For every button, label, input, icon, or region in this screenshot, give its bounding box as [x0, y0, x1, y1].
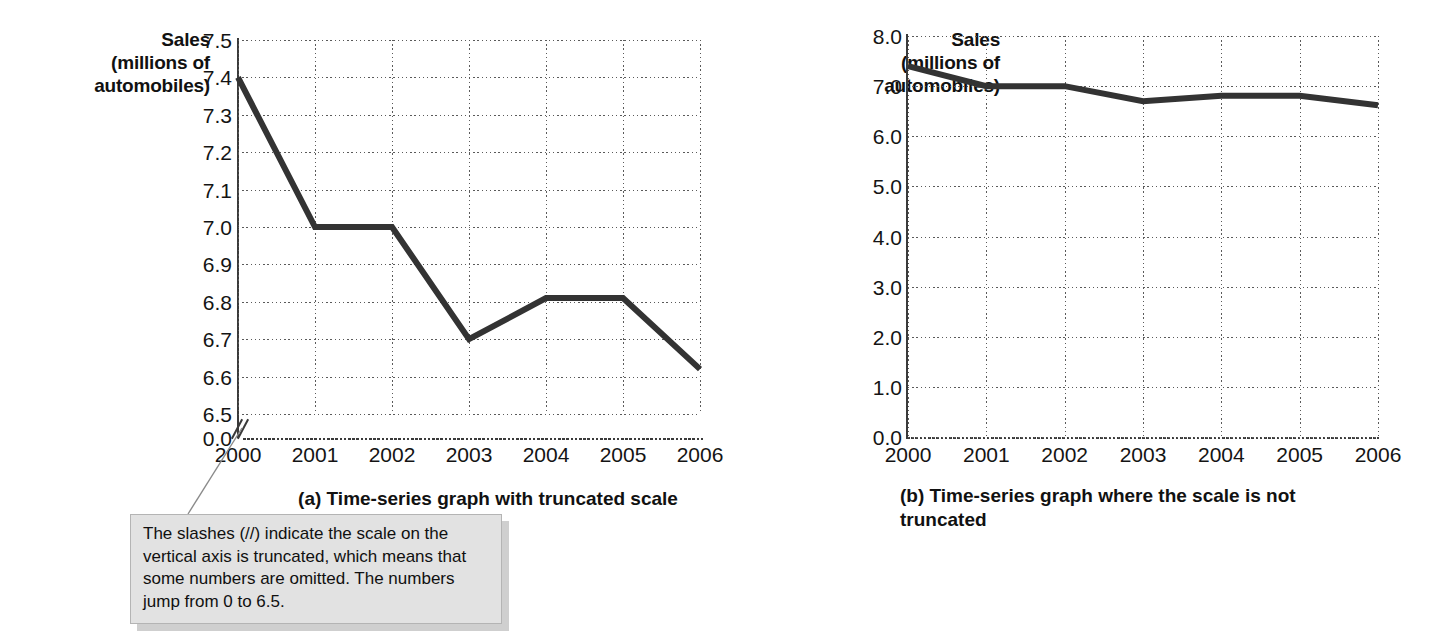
- y-tick-label: 6.0: [782, 126, 902, 147]
- gridline-horizontal: [908, 437, 1378, 438]
- y-tick-label: 4.0: [782, 227, 902, 248]
- gridline-vertical: [238, 40, 239, 414]
- x-tick-label: 2006: [655, 444, 745, 465]
- y-tick-label: 1.0: [782, 377, 902, 398]
- y-tick-label: 6.6: [112, 367, 232, 388]
- y-tick-label: 3.0: [782, 277, 902, 298]
- callout-truncation-note: The slashes (//) indicate the scale on t…: [130, 514, 502, 624]
- y-tick-label: 6.5: [112, 404, 232, 425]
- x-tick-label: 2003: [1098, 444, 1188, 465]
- caption-b: (b) Time-series graph where the scale is…: [900, 484, 1330, 532]
- gridline-vertical: [986, 36, 987, 437]
- gridlines-a: [238, 40, 700, 414]
- gridline-vertical: [469, 40, 470, 414]
- gridline-vertical: [315, 40, 316, 414]
- y-tick-label: 5.0: [782, 176, 902, 197]
- caption-a: (a) Time-series graph with truncated sca…: [238, 487, 738, 511]
- gridline-vertical: [1378, 36, 1379, 437]
- y-tick-label: 7.0: [782, 76, 902, 97]
- x-axis-spine-a: [243, 438, 704, 440]
- gridline-vertical: [392, 40, 393, 414]
- gridline-vertical: [546, 40, 547, 414]
- plot-area-b: [908, 36, 1378, 437]
- y-tick-label: 2.0: [782, 327, 902, 348]
- callout-leader-line: [130, 428, 250, 518]
- panel-a-truncated-scale: Sales (millions of automobiles) 0.06.56.…: [0, 0, 760, 639]
- y-tick-label: 7.0: [112, 217, 232, 238]
- callout-text: The slashes (//) indicate the scale on t…: [143, 524, 466, 611]
- gridline-vertical: [1143, 36, 1144, 437]
- x-tick-label: 2000: [863, 444, 953, 465]
- gridline-vertical: [1300, 36, 1301, 437]
- x-tick-label: 2002: [1020, 444, 1110, 465]
- figure-two-time-series-graphs: Sales (millions of automobiles) 0.06.56.…: [0, 0, 1455, 639]
- y-tick-label: 7.2: [112, 142, 232, 163]
- gridline-vertical: [1065, 36, 1066, 437]
- x-tick-label: 2005: [1255, 444, 1345, 465]
- gridline-vertical: [700, 40, 701, 414]
- y-tick-label: 6.9: [112, 254, 232, 275]
- plot-area-a: [238, 40, 700, 414]
- gridline-horizontal: [238, 414, 700, 415]
- y-tick-label: 7.1: [112, 180, 232, 201]
- y-tick-label: 7.5: [112, 30, 232, 51]
- y-tick-label: 7.3: [112, 105, 232, 126]
- y-tick-label: 6.8: [112, 292, 232, 313]
- x-tick-label: 2001: [941, 444, 1031, 465]
- y-tick-label: 7.4: [112, 67, 232, 88]
- gridline-vertical: [623, 40, 624, 414]
- gridline-vertical: [908, 36, 909, 437]
- y-tick-label: 8.0: [782, 26, 902, 47]
- gridline-vertical: [1221, 36, 1222, 437]
- gridlines-b: [908, 36, 1378, 437]
- x-tick-label: 2006: [1333, 444, 1423, 465]
- y-tick-label: 6.7: [112, 329, 232, 350]
- x-tick-label: 2004: [1176, 444, 1266, 465]
